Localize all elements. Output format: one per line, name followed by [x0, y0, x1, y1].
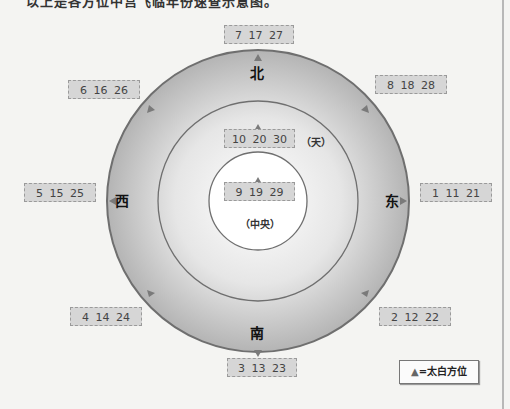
label-heaven: （天） [301, 134, 331, 149]
box-center: 9 19 29 [224, 182, 295, 201]
marker-south [254, 350, 262, 357]
legend-text: =太白方位 [419, 366, 467, 377]
direction-south: 南 [250, 322, 264, 342]
label-center: （中央） [240, 216, 280, 231]
box-northwest: 6 16 26 [68, 80, 140, 99]
legend-box: ▲=太白方位 [399, 360, 479, 384]
box-heaven: 10 20 30 [224, 129, 295, 148]
box-southwest: 4 14 24 [70, 307, 142, 326]
box-northeast: 8 18 28 [375, 75, 447, 94]
box-southeast: 2 12 22 [379, 307, 451, 326]
box-east: 1 11 21 [420, 183, 492, 202]
triangle-icon: ▲ [411, 366, 419, 377]
direction-north: 北 [250, 62, 264, 82]
direction-east: 东 [385, 190, 399, 210]
box-north: 7 17 27 [224, 25, 294, 44]
direction-west: 西 [115, 190, 129, 210]
box-west: 5 15 25 [24, 183, 96, 202]
box-south: 3 13 23 [227, 358, 297, 377]
